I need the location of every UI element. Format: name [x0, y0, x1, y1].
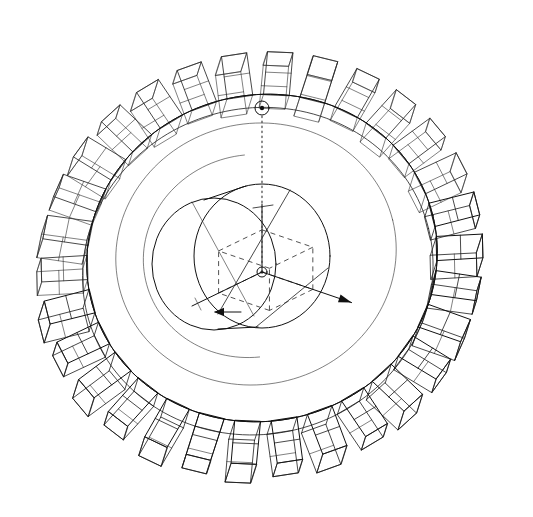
center-marker-dot: [260, 106, 264, 110]
tooth-land-line: [460, 235, 461, 259]
cad-wireframe-drawing: [0, 0, 533, 517]
canvas-background: [0, 0, 533, 517]
drawing-canvas: [0, 0, 533, 517]
